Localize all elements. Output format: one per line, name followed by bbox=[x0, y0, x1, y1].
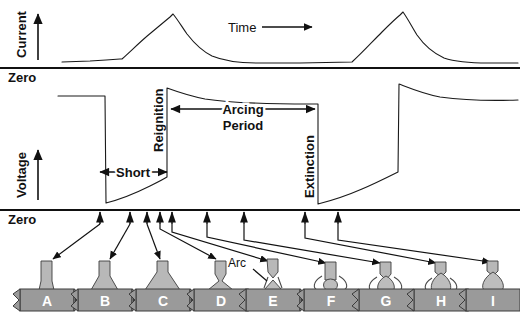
stage-letter-H: H bbox=[436, 293, 446, 309]
stage-tick-arrows bbox=[100, 212, 338, 224]
electrode-B bbox=[91, 261, 118, 290]
current-axis-label: Current bbox=[14, 10, 29, 58]
arcing-period-label-line2: Period bbox=[223, 118, 264, 133]
current-waveform bbox=[62, 12, 518, 63]
plate-notch-left-A bbox=[13, 289, 20, 311]
stage-I: I bbox=[459, 261, 520, 311]
reignition-label: Reignition bbox=[151, 88, 166, 152]
droplet-I bbox=[483, 272, 504, 291]
stage-letter-F: F bbox=[327, 293, 336, 309]
droplet-H bbox=[431, 273, 450, 291]
stage-letter-A: A bbox=[42, 293, 52, 309]
time-label: Time bbox=[228, 20, 256, 35]
electrode-E bbox=[267, 259, 278, 278]
electrode-A bbox=[39, 261, 54, 290]
current-waveform-group bbox=[62, 12, 518, 63]
electrode-F bbox=[325, 262, 336, 280]
leader-lines-group bbox=[53, 224, 490, 263]
stage-C: C bbox=[129, 261, 197, 311]
electrode-C bbox=[145, 261, 180, 290]
arc-leader-line bbox=[253, 269, 267, 281]
waveform-diagram: Current Time Zero Voltage Short Reigniti… bbox=[0, 0, 520, 322]
stage-letter-B: B bbox=[100, 293, 110, 309]
arc-label: Arc bbox=[228, 256, 246, 270]
stage-E: E bbox=[239, 259, 307, 311]
zero-label-bottom: Zero bbox=[8, 212, 36, 227]
stage-letter-D: D bbox=[216, 293, 226, 309]
voltage-waveform-group bbox=[58, 84, 518, 204]
stage-B: B bbox=[71, 261, 139, 311]
voltage-waveform bbox=[58, 84, 518, 204]
stage-letter-G: G bbox=[381, 293, 392, 309]
voltage-axis-label: Voltage bbox=[14, 152, 29, 198]
zero-label-top: Zero bbox=[8, 70, 36, 85]
extinction-label: Extinction bbox=[302, 135, 317, 198]
stage-A: A bbox=[13, 261, 81, 311]
stage-letter-C: C bbox=[158, 293, 168, 309]
stage-letter-E: E bbox=[268, 293, 277, 309]
short-label: Short bbox=[116, 165, 151, 180]
stage-letter-I: I bbox=[491, 293, 495, 309]
arcing-period-label-line1: Arcing bbox=[222, 102, 263, 117]
